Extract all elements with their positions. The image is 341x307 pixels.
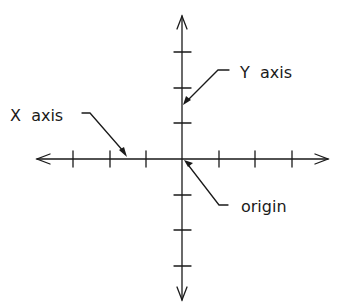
x-axis-leader-line — [82, 113, 124, 152]
y-axis-label: Y axis — [239, 63, 292, 82]
coordinate-diagram: Y axis X axis origin — [0, 0, 341, 307]
origin-pointer-arrowhead-icon — [184, 160, 193, 167]
y-axis-leader-line — [187, 70, 229, 101]
origin-label: origin — [241, 197, 287, 216]
y-axis — [174, 16, 191, 300]
x-axis-label: X axis — [10, 106, 63, 125]
origin-leader-line — [189, 166, 228, 205]
